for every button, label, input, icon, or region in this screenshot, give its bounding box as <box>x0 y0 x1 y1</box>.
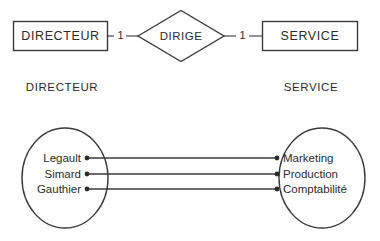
instance-item-comptabilite: Comptabilité <box>283 183 347 195</box>
instance-dot-marketing[interactable] <box>275 156 280 161</box>
instance-dot-gauthier[interactable] <box>85 187 90 192</box>
instance-dot-legault[interactable] <box>85 156 90 161</box>
entity-label-service: SERVICE <box>281 29 340 43</box>
caption-service: SERVICE <box>284 81 338 93</box>
instance-item-legault: Legault <box>43 152 82 164</box>
relationship-label-dirige: DIRIGE <box>160 30 203 42</box>
caption-directeur: DIRECTEUR <box>26 81 99 93</box>
instance-item-production: Production <box>283 168 338 180</box>
entity-label-directeur: DIRECTEUR <box>21 29 99 43</box>
cardinality-left: 1 <box>117 29 123 41</box>
cardinality-right: 1 <box>239 29 245 41</box>
instance-dot-comptabilite[interactable] <box>275 187 280 192</box>
instance-item-simard: Simard <box>45 168 81 180</box>
instance-item-gauthier: Gauthier <box>37 183 81 195</box>
instance-dot-simard[interactable] <box>85 172 90 177</box>
instance-item-marketing: Marketing <box>283 152 334 164</box>
er-diagram-canvas: DIRECTEUR 1 DIRIGE 1 SERVICE DIRECTEUR S… <box>0 0 380 241</box>
er-diagram: DIRECTEUR 1 DIRIGE 1 SERVICE DIRECTEUR S… <box>0 0 380 241</box>
instance-dot-production[interactable] <box>275 172 280 177</box>
